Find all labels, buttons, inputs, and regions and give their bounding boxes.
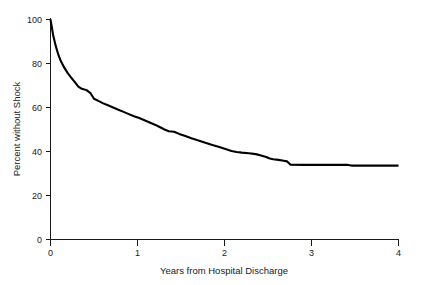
chart-figure: 100 80 60 40 20 0 0 1 2 3 4 Years from H… bbox=[0, 0, 424, 285]
y-axis-ticks bbox=[46, 20, 51, 240]
x-tick-label-2: 2 bbox=[222, 248, 227, 258]
y-tick-label-60: 60 bbox=[32, 103, 42, 113]
survival-curve-plot: 100 80 60 40 20 0 0 1 2 3 4 Years from H… bbox=[0, 0, 424, 285]
y-tick-label-40: 40 bbox=[32, 147, 42, 157]
x-tick-label-0: 0 bbox=[48, 248, 53, 258]
y-tick-label-80: 80 bbox=[32, 59, 42, 69]
y-axis-title: Percent without Shock bbox=[11, 81, 22, 176]
x-axis-title: Years from Hospital Discharge bbox=[160, 265, 288, 276]
survival-curve-line bbox=[51, 20, 399, 166]
x-tick-label-3: 3 bbox=[309, 248, 314, 258]
x-tick-label-1: 1 bbox=[135, 248, 140, 258]
x-tick-label-4: 4 bbox=[396, 248, 401, 258]
y-tick-label-20: 20 bbox=[32, 191, 42, 201]
y-tick-label-100: 100 bbox=[27, 15, 42, 25]
y-tick-label-0: 0 bbox=[37, 235, 42, 245]
x-axis-ticks bbox=[51, 240, 399, 246]
